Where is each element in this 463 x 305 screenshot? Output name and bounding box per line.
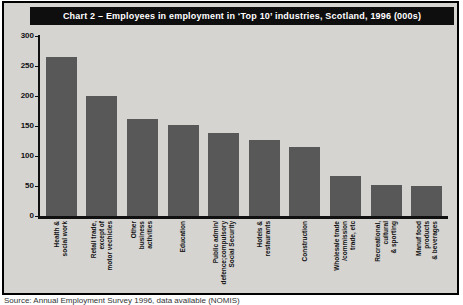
- x-axis-label: Public admin/ defence;compulsory Social …: [203, 221, 244, 293]
- bar-track: [406, 36, 447, 216]
- x-axis-label: Construction: [285, 221, 326, 293]
- bar: [168, 125, 199, 216]
- x-axis-label: Manuf food products & beverages: [406, 221, 447, 293]
- plot-area: 0 50 100 150 200 250 300 Health & social…: [4, 3, 457, 293]
- bar-slot: Education: [163, 36, 204, 293]
- x-axis-label-text: Recreational, cultural & sporting: [374, 221, 398, 293]
- x-axis-label: Wholesale trade /commission trade, etc: [325, 221, 366, 293]
- bar: [46, 57, 77, 216]
- bar-slot: Hotels & restaurants: [244, 36, 285, 293]
- bar-track: [163, 36, 204, 216]
- y-tick-label: 250: [4, 61, 34, 71]
- x-axis-label-text: Hotels & restaurants: [256, 221, 272, 293]
- bar-slot: Recreational, cultural & sporting: [366, 36, 407, 293]
- x-axis-label-text: Retail trade, except of motor vechicles: [90, 221, 114, 293]
- chart-panel: Chart 2 – Employees in employment in ‘To…: [2, 1, 459, 295]
- bar: [411, 186, 442, 216]
- x-axis-label: Recreational, cultural & sporting: [366, 221, 407, 293]
- bar-track: [122, 36, 163, 216]
- bar-track: [41, 36, 82, 216]
- x-axis-label: Retail trade, except of motor vechicles: [82, 221, 123, 293]
- y-tick-label: 0: [4, 211, 34, 221]
- x-axis-label: Hotels & restaurants: [244, 221, 285, 293]
- source-caption: Source: Annual Employment Survey 1996, d…: [4, 296, 240, 305]
- bar-track: [244, 36, 285, 216]
- y-tick-label: 300: [4, 31, 34, 41]
- bar-track: [82, 36, 123, 216]
- bar-track: [325, 36, 366, 216]
- bar: [330, 176, 361, 216]
- bar-slot: Health & social work: [41, 36, 82, 293]
- x-axis-label: Education: [163, 221, 204, 293]
- bar-slot: Retail trade, except of motor vechicles: [82, 36, 123, 293]
- bar-track: [366, 36, 407, 216]
- bar-slot: Public admin/ defence;compulsory Social …: [203, 36, 244, 293]
- x-axis-label: Other business activities: [122, 221, 163, 293]
- y-tick-label: 100: [4, 151, 34, 161]
- x-axis-label-text: Public admin/ defence;compulsory Social …: [211, 221, 235, 293]
- y-tick-label: 50: [4, 181, 34, 191]
- bar: [289, 147, 320, 216]
- x-axis-label-text: Other business activities: [130, 221, 154, 293]
- x-axis-label: Health & social work: [41, 221, 82, 293]
- bar-track: [285, 36, 326, 216]
- y-tick-label: 200: [4, 91, 34, 101]
- bar-slot: Construction: [285, 36, 326, 293]
- x-axis-label-text: Wholesale trade /commission trade, etc: [333, 221, 357, 293]
- y-tick-label: 150: [4, 121, 34, 131]
- bar: [127, 119, 158, 216]
- bar-slot: Manuf food products & beverages: [406, 36, 447, 293]
- bar-track: [203, 36, 244, 216]
- x-axis-label-text: Construction: [301, 221, 309, 293]
- x-axis-label-text: Education: [179, 221, 187, 293]
- bar-slot: Wholesale trade /commission trade, etc: [325, 36, 366, 293]
- y-axis-line: [38, 35, 40, 219]
- bar: [371, 185, 402, 216]
- x-axis-label-text: Health & social work: [53, 221, 69, 293]
- bar: [86, 96, 117, 216]
- bar: [249, 140, 280, 216]
- bar-slot: Other business activities: [122, 36, 163, 293]
- bars-container: Health & social work Retail trade, excep…: [41, 36, 447, 293]
- bar: [208, 133, 239, 216]
- x-axis-label-text: Manuf food products & beverages: [414, 221, 438, 293]
